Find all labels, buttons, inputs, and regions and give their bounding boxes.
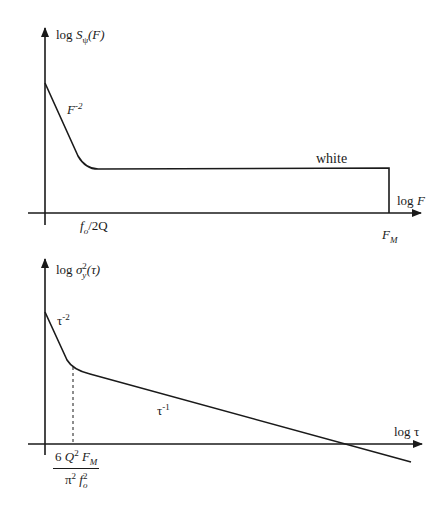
label-prefix: log — [56, 27, 76, 42]
tick-cutoff-FM: FM — [382, 228, 397, 241]
tick-knee-fraction: 6 Q2 FM π2 f2o — [53, 449, 99, 490]
tick-corner-frequency: fo/2Q — [80, 219, 108, 232]
den-scripts: 2o — [83, 472, 88, 490]
slope-base: F — [67, 102, 75, 117]
label-prefix: log — [397, 193, 417, 208]
tick-base: F — [382, 227, 390, 242]
label-var: F — [417, 193, 425, 208]
num-coef: 6 — [55, 449, 65, 464]
label-arg: (F) — [88, 27, 105, 42]
spectrum-curve — [45, 83, 389, 213]
spectral-density-plot — [28, 28, 421, 225]
y-axis-label-allan: log σ2y(τ) — [56, 262, 100, 280]
num-fsub: M — [90, 457, 98, 467]
slope-exp: -2 — [62, 312, 70, 322]
label-prefix: log — [394, 424, 414, 439]
label-arg: (τ) — [87, 262, 100, 277]
white-noise-label: white — [316, 152, 347, 166]
fraction-denominator: π2 f2o — [53, 469, 99, 490]
tick-sub: M — [390, 235, 398, 245]
allan-variance-plot — [28, 259, 422, 462]
label-var: τ — [414, 424, 419, 439]
tick-rest: /2Q — [88, 218, 108, 233]
den-fsub: o — [83, 481, 88, 490]
slope-label-tau-minus1: τ-1 — [157, 404, 170, 417]
slope-label-tau-minus2: τ-2 — [57, 314, 70, 327]
diagram-canvas — [0, 0, 444, 516]
num-f: F — [79, 449, 90, 464]
num-q: Q — [65, 449, 74, 464]
y-axis-label-spectral: log Sψ(F) — [56, 28, 105, 41]
x-axis-label-logF: log F — [397, 194, 425, 207]
slope-exp: -1 — [162, 402, 170, 412]
x-axis-label-logtau: log τ — [394, 425, 419, 438]
label-prefix: log — [56, 262, 76, 277]
variance-curve — [45, 312, 411, 462]
slope-label-f-minus2: F-2 — [67, 103, 82, 116]
fraction-numerator: 6 Q2 FM — [53, 449, 99, 469]
den-pi: π — [65, 472, 72, 487]
slope-exp: -2 — [75, 101, 83, 111]
den-f: f — [76, 472, 83, 487]
